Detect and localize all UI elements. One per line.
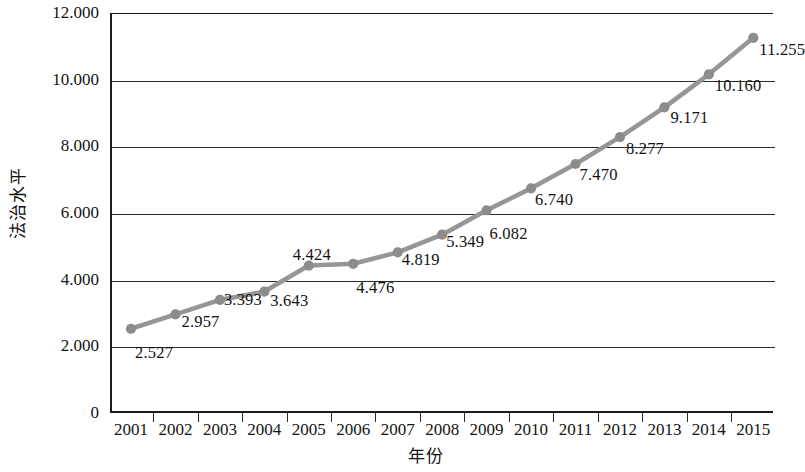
data-point-label: 4.476: [356, 278, 394, 298]
data-point-label: 3.393: [224, 290, 262, 310]
data-point-label: 6.082: [490, 224, 528, 244]
data-point-label: 9.171: [670, 108, 708, 128]
data-point-label: 8.277: [626, 139, 664, 159]
data-point-label: 7.470: [580, 165, 618, 185]
data-point-label: 10.160: [715, 76, 762, 96]
data-point-label: 5.349: [446, 232, 484, 252]
data-point-label: 6.740: [535, 190, 573, 210]
data-point-label: 4.424: [293, 245, 331, 265]
data-point-label: 4.819: [402, 250, 440, 270]
data-point-label: 3.643: [270, 291, 308, 311]
data-point-label: 2.527: [135, 343, 173, 363]
data-point-label: 2.957: [181, 312, 219, 332]
data-point-label: 11.255: [759, 40, 805, 60]
